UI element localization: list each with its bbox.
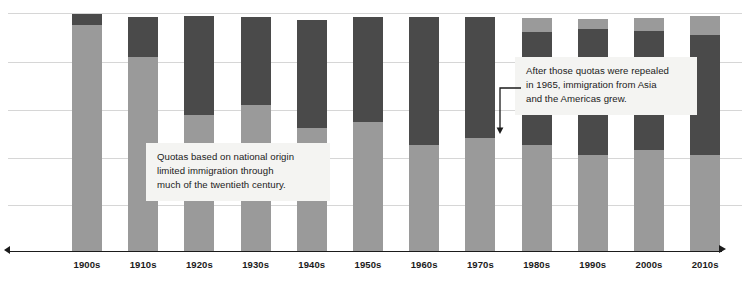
bar-segment-1990s-europe (578, 19, 608, 29)
x-tick-label-1960s: 1960s (396, 259, 452, 270)
x-tick-label-1940s: 1940s (284, 259, 340, 270)
bar-segment-1960s-europe (409, 145, 439, 251)
bar-1990s[interactable] (578, 0, 608, 252)
annotation-quotas: Quotas based on national origin limited … (146, 143, 330, 201)
x-tick-label-1980s: 1980s (509, 259, 565, 270)
bar-segment-2000s-europe (634, 150, 664, 251)
x-axis-line (8, 251, 722, 252)
bar-segment-1910s-other-regions (128, 17, 158, 57)
bar-1950s[interactable] (353, 0, 383, 252)
bar-1900s[interactable] (72, 0, 102, 252)
bar-segment-1900s-other-regions (72, 14, 102, 25)
x-tick-label-1920s: 1920s (171, 259, 227, 270)
x-tick-label-1990s: 1990s (565, 259, 621, 270)
annotation-repealed: After those quotas were repealed in 1965… (515, 57, 697, 115)
x-axis-tail-arrow-icon (4, 246, 10, 254)
bar-segment-1970s-europe (465, 138, 495, 251)
bar-1910s[interactable] (128, 0, 158, 252)
bar-segment-1940s-other-regions (297, 20, 327, 128)
x-tick-label-1910s: 1910s (115, 259, 171, 270)
x-tick-label-1950s: 1950s (340, 259, 396, 270)
x-tick-label-2010s: 2010s (677, 259, 733, 270)
x-tick-label-1930s: 1930s (228, 259, 284, 270)
bar-1920s[interactable] (184, 0, 214, 252)
bar-segment-2000s-europe (634, 18, 664, 31)
immigration-stacked-bar-chart: 1900s1910s1920s1930s1940s1950s1960s1970s… (0, 0, 742, 292)
bar-segment-1990s-europe (578, 155, 608, 251)
x-tick-label-1970s: 1970s (452, 259, 508, 270)
bar-2000s[interactable] (634, 0, 664, 252)
bar-segment-1950s-other-regions (353, 17, 383, 122)
bar-1980s[interactable] (522, 0, 552, 252)
annotation-leader-line (487, 86, 523, 136)
bar-1960s[interactable] (409, 0, 439, 252)
x-tick-label-2000s: 2000s (621, 259, 677, 270)
bar-2010s[interactable] (690, 0, 720, 252)
x-tick-label-1900s: 1900s (59, 259, 115, 270)
bar-segment-2010s-europe (690, 16, 720, 35)
bar-segment-1900s-europe (72, 25, 102, 251)
bar-segment-1920s-other-regions (184, 16, 214, 115)
bar-segment-1980s-europe (522, 18, 552, 32)
bar-segment-1980s-europe (522, 145, 552, 251)
bar-1940s[interactable] (297, 0, 327, 252)
bar-segment-2010s-europe (690, 155, 720, 251)
bar-segment-1950s-europe (353, 122, 383, 251)
plot-area (0, 0, 742, 252)
bar-segment-1960s-other-regions (409, 17, 439, 145)
bar-segment-1930s-other-regions (241, 17, 271, 105)
bar-1930s[interactable] (241, 0, 271, 252)
x-axis-arrow-icon (719, 245, 726, 253)
